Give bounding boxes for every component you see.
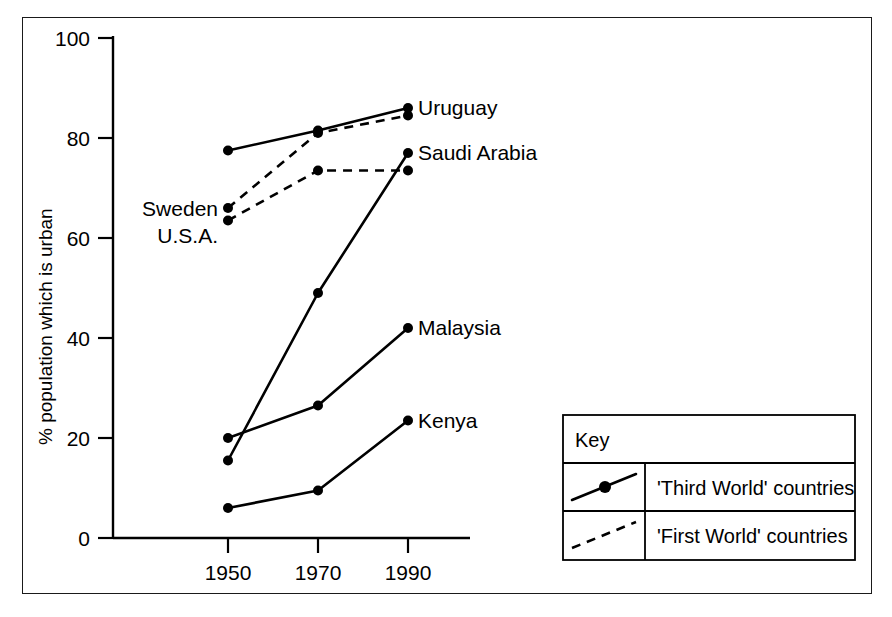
series-label-usa: U.S.A. <box>157 224 218 247</box>
chart-page: 100 80 60 40 20 0 1950 1970 1990 % popul… <box>0 0 892 617</box>
series-malaysia-point-1950 <box>223 433 233 443</box>
series-saudi-arabia-point-1970 <box>313 288 323 298</box>
legend-swatch-solid-marker-icon <box>599 481 611 493</box>
series-malaysia <box>223 323 413 443</box>
series-label-sweden: Sweden <box>142 197 218 220</box>
series-malaysia-point-1990 <box>403 323 413 333</box>
x-tick-marks <box>228 538 408 553</box>
line-chart: 100 80 60 40 20 0 1950 1970 1990 % popul… <box>0 0 892 617</box>
series-usa-point-1970 <box>313 166 323 176</box>
series-kenya-point-1990 <box>403 416 413 426</box>
y-tick-labels: 100 80 60 40 20 0 <box>55 27 90 550</box>
series-sweden-point-1950 <box>223 203 233 213</box>
series-saudi-arabia-point-1990 <box>403 148 413 158</box>
series-malaysia-line <box>228 328 408 438</box>
y-tick-label-20: 20 <box>67 427 90 450</box>
y-tick-label-60: 60 <box>67 227 90 250</box>
y-tick-marks <box>98 38 113 538</box>
y-tick-label-100: 100 <box>55 27 90 50</box>
series-kenya-point-1950 <box>223 503 233 513</box>
series-saudi-arabia-point-1950 <box>223 456 233 466</box>
series-usa-point-1990 <box>403 166 413 176</box>
legend-title: Key <box>575 429 609 451</box>
series-saudi-arabia <box>223 148 413 466</box>
series-sweden-point-1970 <box>313 128 323 138</box>
series-label-kenya: Kenya <box>418 409 478 432</box>
series-label-malaysia: Malaysia <box>418 316 501 339</box>
y-tick-label-40: 40 <box>67 327 90 350</box>
axes-group <box>113 36 470 538</box>
series-label-uruguay: Uruguay <box>418 96 498 119</box>
legend-label-third-world: 'Third World' countries <box>657 477 854 499</box>
x-tick-label-1950: 1950 <box>205 561 252 584</box>
y-tick-label-0: 0 <box>78 527 90 550</box>
series-usa-point-1950 <box>223 216 233 226</box>
legend-label-first-world: 'First World' countries <box>657 525 848 547</box>
x-tick-label-1970: 1970 <box>295 561 342 584</box>
series-sweden-point-1990 <box>403 111 413 121</box>
series-usa <box>223 166 413 226</box>
series-labels-group: Uruguay Saudi Arabia Malaysia Kenya Swed… <box>142 96 537 432</box>
series-uruguay-point-1950 <box>223 146 233 156</box>
y-tick-label-80: 80 <box>67 127 90 150</box>
x-tick-label-1990: 1990 <box>385 561 432 584</box>
series-saudi-arabia-line <box>228 153 408 461</box>
series-malaysia-point-1970 <box>313 401 323 411</box>
series-kenya-point-1970 <box>313 486 323 496</box>
legend-box: Key 'Third World' countries 'First World… <box>563 415 855 560</box>
series-label-saudi-arabia: Saudi Arabia <box>418 141 537 164</box>
y-axis-title: % population which is urban <box>35 208 56 445</box>
x-tick-labels: 1950 1970 1990 <box>205 561 432 584</box>
